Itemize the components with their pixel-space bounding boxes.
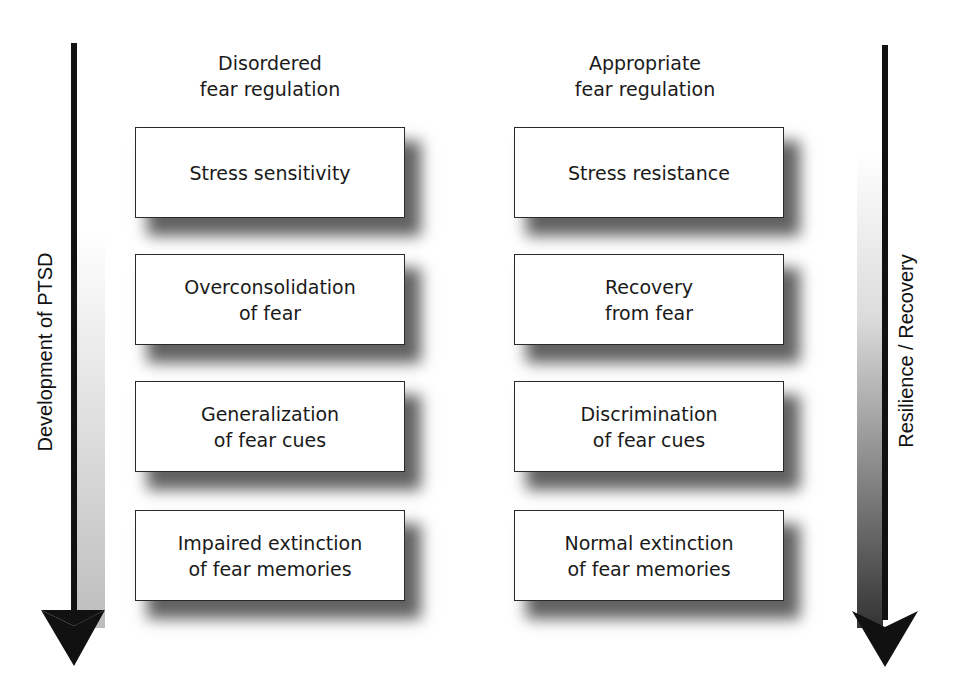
column-header-appropriate: Appropriate fear regulation <box>495 50 795 102</box>
left-axis-label: Development of PTSD <box>34 253 57 452</box>
box-text: of fear memories <box>567 556 730 582</box>
box-text: Normal extinction <box>565 530 734 556</box>
box-text: Impaired extinction <box>178 530 363 556</box>
box-text: of fear memories <box>188 556 351 582</box>
header-line: Appropriate <box>495 50 795 76</box>
box-generalization-of-fear-cues: Generalization of fear cues <box>135 381 405 472</box>
box-impaired-extinction: Impaired extinction of fear memories <box>135 510 405 601</box>
box-normal-extinction: Normal extinction of fear memories <box>514 510 784 601</box>
right-axis-gradient-band <box>857 150 883 628</box>
right-axis-label: Resilience / Recovery <box>895 254 918 447</box>
column-header-disordered: Disordered fear regulation <box>120 50 420 102</box>
box-text: Stress resistance <box>568 160 730 186</box>
left-axis-gradient-band <box>76 230 105 628</box>
box-text: of fear cues <box>214 427 326 453</box>
header-line: fear regulation <box>495 76 795 102</box>
box-stress-sensitivity: Stress sensitivity <box>135 127 405 218</box>
header-line: fear regulation <box>120 76 420 102</box>
right-axis-arrowhead-icon <box>0 0 1 1</box>
right-axis-shaft <box>882 45 888 620</box>
box-text: of fear cues <box>593 427 705 453</box>
box-discrimination-of-fear-cues: Discrimination of fear cues <box>514 381 784 472</box>
box-text: Generalization <box>201 401 339 427</box>
box-recovery-from-fear: Recovery from fear <box>514 254 784 345</box>
left-axis-shaft <box>71 43 77 618</box>
box-text: of fear <box>239 300 301 326</box>
box-text: Stress sensitivity <box>189 160 350 186</box>
box-text: Recovery <box>605 274 693 300</box>
box-text: Overconsolidation <box>184 274 356 300</box>
box-stress-resistance: Stress resistance <box>514 127 784 218</box>
box-overconsolidation-of-fear: Overconsolidation of fear <box>135 254 405 345</box>
header-line: Disordered <box>120 50 420 76</box>
box-text: Discrimination <box>580 401 717 427</box>
box-text: from fear <box>605 300 693 326</box>
